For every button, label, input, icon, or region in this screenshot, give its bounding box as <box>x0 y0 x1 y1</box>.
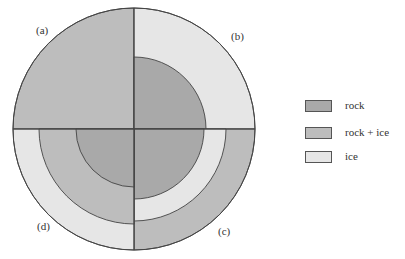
quadrant-c <box>134 129 255 250</box>
legend-label: ice <box>345 150 358 162</box>
legend-label: rock + ice <box>345 126 389 138</box>
label-a: (a) <box>36 24 48 36</box>
label-c: (c) <box>218 225 230 237</box>
layer-rock-ice <box>13 8 134 129</box>
ice-swatch <box>305 151 332 163</box>
quadrant-b <box>134 8 255 129</box>
rock-swatch <box>305 100 332 112</box>
label-b: (b) <box>231 30 244 42</box>
legend-label: rock <box>345 99 365 111</box>
quadrant-d <box>13 129 134 250</box>
label-d: (d) <box>37 220 50 232</box>
quadrant-a <box>13 8 134 129</box>
rock-ice-swatch <box>305 127 332 139</box>
